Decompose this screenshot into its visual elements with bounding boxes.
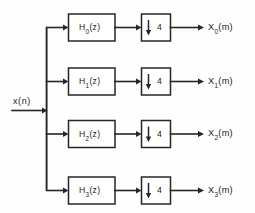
decimation-factor-2: 4 bbox=[157, 130, 162, 139]
decimation-factor-3: 4 bbox=[157, 186, 162, 195]
filter-label-1: H1(z) bbox=[79, 77, 100, 86]
branch-row-1 bbox=[47, 68, 204, 95]
branch-row-0 bbox=[47, 14, 204, 41]
output-label-0: X0(m) bbox=[208, 23, 233, 32]
output-label-3: X3(m) bbox=[208, 186, 233, 195]
decimator-box-1[interactable] bbox=[142, 68, 171, 95]
output-label-1: X1(m) bbox=[208, 77, 233, 86]
filter-label-2: H2(z) bbox=[79, 130, 100, 139]
decimator-box-0[interactable] bbox=[142, 14, 171, 41]
filter-bank-diagram: x(n) H0(z) H1(z) H2(z) H3(z) 4 4 4 4 X0(… bbox=[0, 0, 255, 213]
decimation-factor-1: 4 bbox=[157, 77, 162, 86]
decimator-box-3[interactable] bbox=[142, 177, 171, 204]
filter-label-0: H0(z) bbox=[79, 23, 100, 32]
input-signal-label: x(n) bbox=[13, 97, 31, 106]
decimation-factor-0: 4 bbox=[157, 23, 162, 32]
filter-label-3: H3(z) bbox=[79, 186, 100, 195]
decimator-box-2[interactable] bbox=[142, 121, 171, 148]
branch-row-2 bbox=[47, 121, 204, 148]
branch-row-3 bbox=[47, 177, 204, 204]
output-label-2: X2(m) bbox=[208, 129, 233, 138]
input-wire bbox=[12, 107, 48, 113]
